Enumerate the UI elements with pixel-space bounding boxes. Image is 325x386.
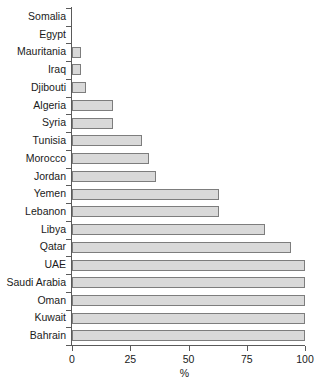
y-axis-label-yemen: Yemen bbox=[34, 188, 66, 199]
bar-row bbox=[72, 292, 305, 310]
x-axis-tick bbox=[247, 346, 248, 351]
y-axis-tick bbox=[66, 26, 71, 27]
y-axis-label-oman: Oman bbox=[37, 295, 66, 306]
y-axis-tick bbox=[66, 239, 71, 240]
bar-row bbox=[72, 43, 305, 61]
x-axis-tick-label: 75 bbox=[241, 353, 253, 365]
y-axis-tick bbox=[66, 203, 71, 204]
x-axis-tick-label: 100 bbox=[296, 353, 314, 365]
y-axis-tick bbox=[66, 8, 71, 9]
x-axis-tick bbox=[189, 346, 190, 351]
y-axis-label-algeria: Algeria bbox=[33, 100, 66, 111]
bar-row bbox=[72, 256, 305, 274]
y-axis-tick bbox=[66, 79, 71, 80]
bar bbox=[72, 47, 81, 58]
y-axis-label-egypt: Egypt bbox=[39, 29, 66, 40]
bar-row bbox=[72, 114, 305, 132]
bar-row bbox=[72, 185, 305, 203]
bar bbox=[72, 153, 149, 164]
x-axis-tick bbox=[72, 346, 73, 351]
x-axis-tick bbox=[130, 346, 131, 351]
bar-row bbox=[72, 97, 305, 115]
bar bbox=[72, 313, 305, 324]
bar bbox=[72, 64, 81, 75]
y-axis-label-saudi-arabia: Saudi Arabia bbox=[6, 277, 66, 288]
y-axis-tick bbox=[66, 345, 71, 346]
bar-row bbox=[72, 61, 305, 79]
y-axis-label-syria: Syria bbox=[42, 117, 66, 128]
x-axis-tick-label: 50 bbox=[183, 353, 195, 365]
y-axis-label-djibouti: Djibouti bbox=[31, 82, 66, 93]
bar bbox=[72, 206, 219, 217]
bar-row bbox=[72, 274, 305, 292]
y-axis-label-jordan: Jordan bbox=[34, 171, 66, 182]
y-axis-tick bbox=[66, 274, 71, 275]
bar-row bbox=[72, 132, 305, 150]
bar bbox=[72, 135, 142, 146]
y-axis-label-lebanon: Lebanon bbox=[25, 206, 66, 217]
y-axis-tick bbox=[66, 185, 71, 186]
bar-row bbox=[72, 221, 305, 239]
bar bbox=[72, 171, 156, 182]
y-axis-tick bbox=[66, 256, 71, 257]
y-axis-label-tunisia: Tunisia bbox=[33, 135, 66, 146]
bar bbox=[72, 189, 219, 200]
y-axis-label-bahrain: Bahrain bbox=[30, 330, 66, 341]
bar bbox=[72, 260, 305, 271]
bar-row bbox=[72, 203, 305, 221]
y-axis-tick bbox=[66, 310, 71, 311]
bar bbox=[72, 118, 113, 129]
x-axis-tick-label: 0 bbox=[69, 353, 75, 365]
y-axis-label-iraq: Iraq bbox=[48, 64, 66, 75]
bar bbox=[72, 295, 305, 306]
y-axis-label-qatar: Qatar bbox=[40, 241, 66, 252]
bar bbox=[72, 330, 305, 341]
y-axis-tick bbox=[66, 61, 71, 62]
bar-row bbox=[72, 150, 305, 168]
x-axis-title: % bbox=[0, 367, 325, 379]
bar bbox=[72, 242, 291, 253]
y-axis-tick bbox=[66, 221, 71, 222]
x-axis-title-text: % bbox=[180, 367, 189, 379]
y-axis-tick bbox=[66, 168, 71, 169]
y-axis-label-somalia: Somalia bbox=[28, 11, 66, 22]
y-axis-tick bbox=[66, 292, 71, 293]
y-axis-label-libya: Libya bbox=[41, 224, 66, 235]
x-axis-tick-label: 25 bbox=[124, 353, 136, 365]
bar bbox=[72, 82, 86, 93]
y-axis-tick bbox=[66, 327, 71, 328]
bar-row bbox=[72, 327, 305, 345]
bar bbox=[72, 100, 113, 111]
x-axis-tick bbox=[305, 346, 306, 351]
bar-row bbox=[72, 79, 305, 97]
y-axis-label-uae: UAE bbox=[44, 259, 66, 270]
bar-row bbox=[72, 310, 305, 328]
y-axis-label-mauritania: Mauritania bbox=[17, 46, 66, 57]
bar-row bbox=[72, 168, 305, 186]
y-axis-tick bbox=[66, 150, 71, 151]
y-axis-tick bbox=[66, 43, 71, 44]
y-axis-tick bbox=[66, 114, 71, 115]
bar bbox=[72, 224, 265, 235]
bar-chart: SomaliaEgyptMauritaniaIraqDjiboutiAlgeri… bbox=[0, 0, 325, 386]
y-axis-label-kuwait: Kuwait bbox=[34, 312, 66, 323]
y-axis-label-morocco: Morocco bbox=[26, 153, 66, 164]
y-axis-tick bbox=[66, 132, 71, 133]
y-axis-tick bbox=[66, 97, 71, 98]
bar-row bbox=[72, 239, 305, 257]
plot-area bbox=[72, 8, 305, 345]
bar bbox=[72, 277, 305, 288]
bar-row bbox=[72, 26, 305, 44]
bar-row bbox=[72, 8, 305, 26]
